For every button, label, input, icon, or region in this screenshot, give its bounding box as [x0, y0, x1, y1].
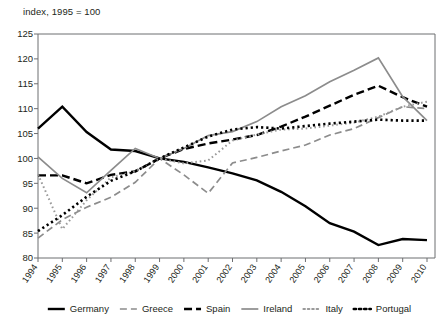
series-line-portugal: [38, 120, 427, 231]
svg-text:115: 115: [18, 78, 33, 89]
svg-text:95: 95: [22, 178, 33, 189]
chart-page: index, 1995 = 100 8085909510010511011512…: [0, 0, 447, 326]
legend-label-spain[interactable]: Spain: [206, 303, 230, 314]
svg-text:2002: 2002: [214, 262, 234, 284]
legend-label-portugal[interactable]: Portugal: [376, 303, 411, 314]
svg-text:1999: 1999: [142, 262, 162, 284]
chart-legend[interactable]: GermanyGreeceSpainIrelandItalyPortugal: [48, 303, 411, 314]
legend-label-germany[interactable]: Germany: [70, 303, 109, 314]
svg-text:85: 85: [22, 228, 33, 239]
svg-text:2004: 2004: [263, 262, 283, 284]
svg-text:2005: 2005: [287, 262, 307, 284]
legend-label-italy[interactable]: Italy: [325, 303, 343, 314]
y-axis-ticks: [34, 34, 38, 258]
series-line-italy: [38, 102, 427, 229]
x-axis-ticks: [38, 258, 427, 262]
svg-text:2008: 2008: [360, 262, 380, 284]
line-chart-svg: 80859095100105110115120125 1994199519961…: [0, 0, 447, 326]
series-line-spain: [38, 86, 427, 184]
svg-text:2009: 2009: [385, 262, 405, 284]
svg-text:80: 80: [22, 252, 33, 263]
svg-text:2000: 2000: [166, 262, 186, 284]
svg-text:120: 120: [17, 53, 33, 64]
svg-text:90: 90: [22, 203, 33, 214]
svg-text:1995: 1995: [44, 262, 64, 284]
svg-text:2006: 2006: [312, 262, 332, 284]
svg-text:2003: 2003: [239, 262, 259, 284]
svg-text:105: 105: [17, 128, 33, 139]
svg-text:1998: 1998: [117, 262, 137, 284]
chart-canvas: 80859095100105110115120125 1994199519961…: [0, 0, 447, 326]
svg-text:2001: 2001: [190, 262, 210, 284]
series-line-germany: [38, 107, 427, 245]
data-series: [38, 58, 427, 245]
svg-text:110: 110: [18, 103, 33, 114]
x-axis-labels: 1994199519961997199819992000200120022003…: [20, 262, 429, 284]
svg-text:1997: 1997: [93, 262, 113, 284]
legend-label-greece[interactable]: Greece: [142, 303, 173, 314]
plot-frame: [38, 34, 435, 258]
legend-label-ireland[interactable]: Ireland: [263, 303, 292, 314]
svg-text:100: 100: [17, 153, 33, 164]
svg-text:1996: 1996: [69, 262, 89, 284]
svg-text:2007: 2007: [336, 262, 356, 284]
svg-text:125: 125: [17, 28, 33, 39]
svg-text:2010: 2010: [409, 262, 429, 284]
y-axis-labels: 80859095100105110115120125: [17, 28, 33, 263]
svg-text:1994: 1994: [20, 262, 40, 284]
